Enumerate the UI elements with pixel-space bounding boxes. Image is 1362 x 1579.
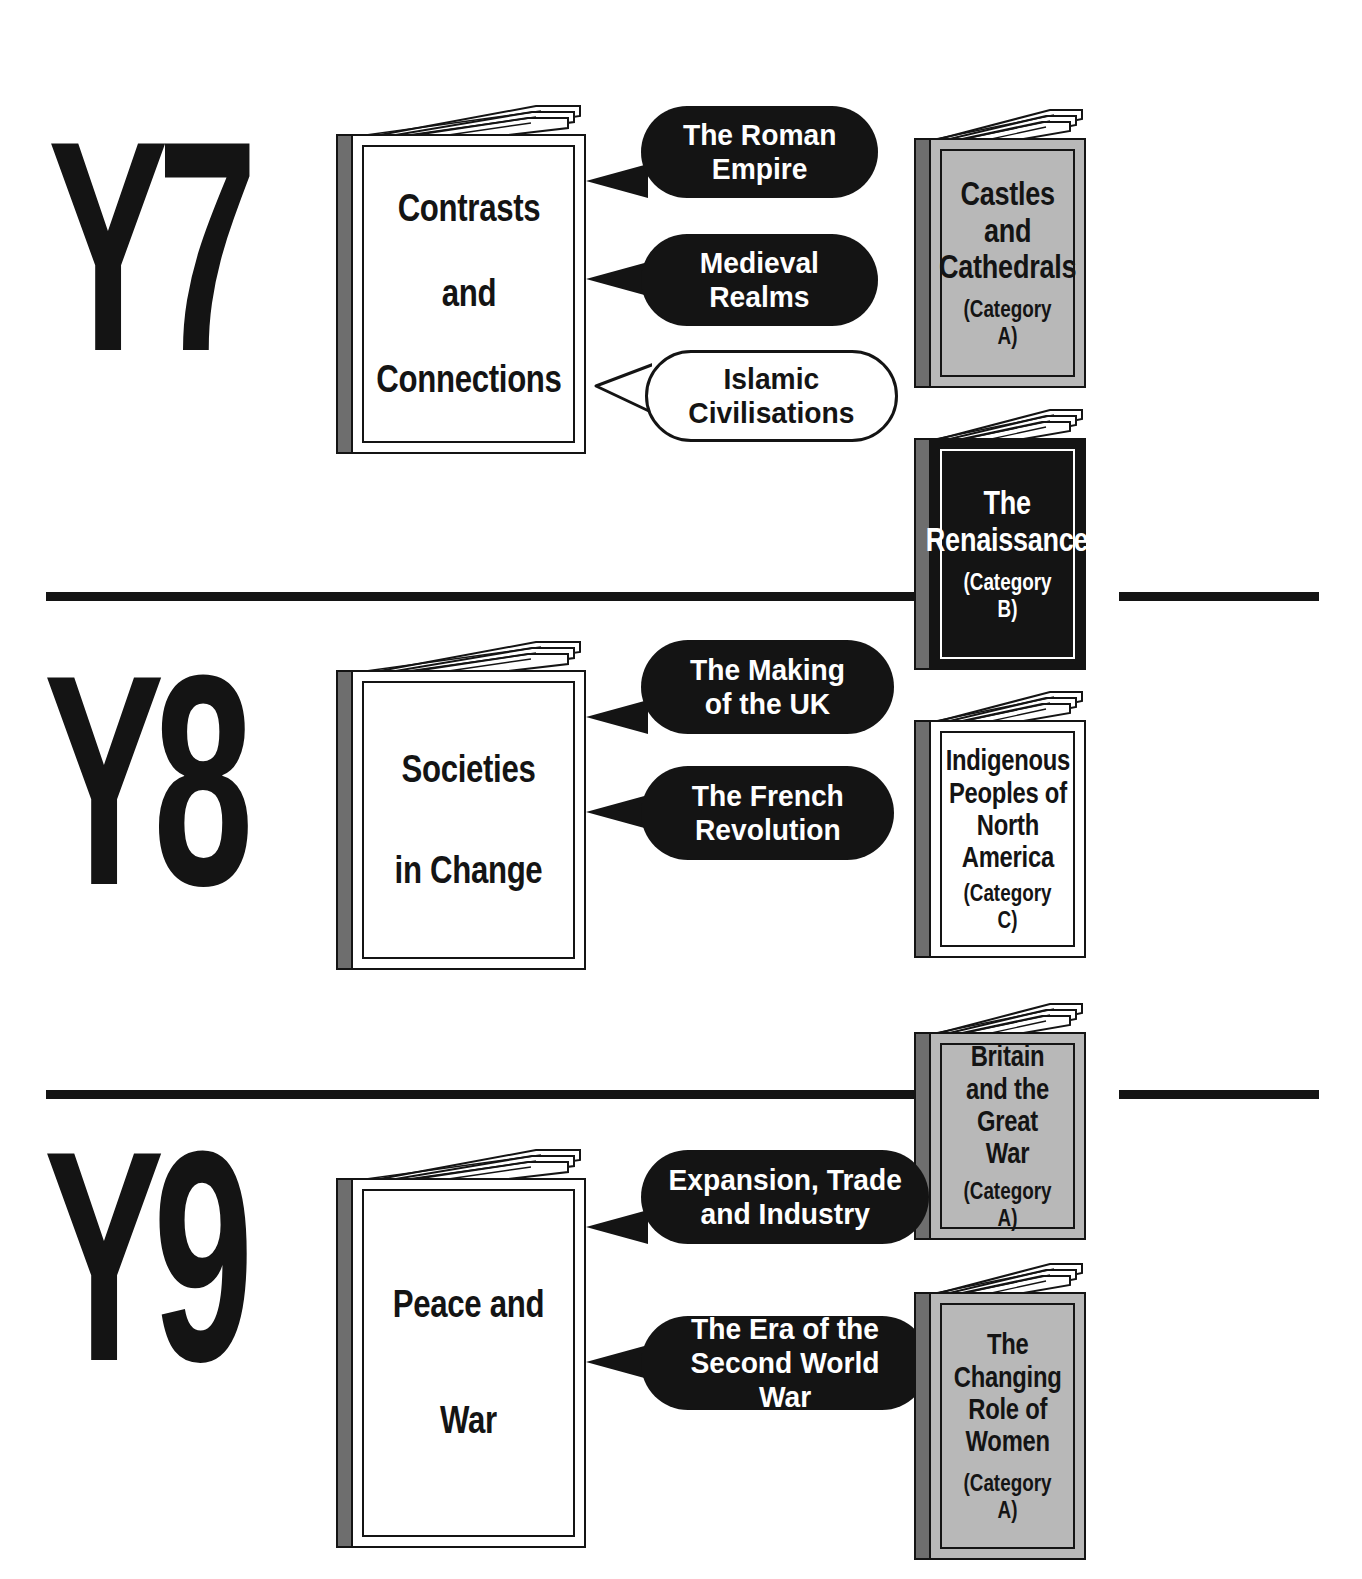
book-category: (Category B) [955, 569, 1059, 623]
bubble-tail-roman-empire [586, 164, 648, 198]
bubble-tail-era-of-the-second-world-war [586, 1345, 648, 1379]
book-title: Britain and the Great War [955, 1040, 1059, 1170]
book-cover: Societies in Change [351, 670, 586, 970]
bubble-label: Medieval Realms [700, 246, 819, 314]
book-britain-and-the-great-war[interactable]: Britain and the Great War (Category A) [914, 1002, 1086, 1240]
book-category: (Category A) [955, 1470, 1059, 1524]
book-title: Societies in Change [384, 719, 552, 920]
bubble-tail-medieval-realms [586, 262, 648, 296]
bubble-the-roman-empire[interactable]: The Roman Empire [641, 106, 878, 198]
bubble-tail-making-of-the-uk [586, 700, 648, 734]
book-cover: Britain and the Great War (Category A) [929, 1032, 1086, 1240]
diagram-canvas: Y7 Y8 Y9 [0, 0, 1362, 1579]
book-peace-and-war[interactable]: Peace and War [336, 1148, 586, 1548]
book-cover: Peace and War [351, 1178, 586, 1548]
bubble-label: The Making of the UK [690, 653, 845, 721]
book-category: (Category A) [955, 296, 1059, 350]
book-cover-inner: Contrasts and Connections [362, 145, 575, 443]
book-body: Contrasts and Connections [336, 134, 586, 454]
book-title: Castles and Cathedrals [939, 176, 1076, 287]
divider-y7-y8-right [1119, 592, 1319, 601]
book-the-changing-role-of-women[interactable]: The Changing Role of Women (Category A) [914, 1262, 1086, 1560]
book-category: (Category A) [955, 1178, 1059, 1232]
book-cover: Castles and Cathedrals (Category A) [929, 138, 1086, 388]
year-label-y9: Y9 [44, 1106, 243, 1406]
bubble-label: Islamic Civilisations [688, 362, 854, 430]
bubble-the-making-of-the-uk[interactable]: The Making of the UK [641, 640, 894, 734]
bubble-label: Expansion, Trade and Industry [668, 1163, 902, 1231]
book-category: (Category C) [955, 880, 1059, 934]
bubble-label: The Era of the Second World War [667, 1312, 904, 1414]
year-label-y7: Y7 [48, 96, 247, 396]
book-cover: Contrasts and Connections [351, 134, 586, 454]
book-title: The Renaissance [926, 485, 1088, 559]
bubble-tail-french-revolution [586, 795, 648, 829]
bubble-the-french-revolution[interactable]: The French Revolution [641, 766, 894, 860]
book-contrasts-and-connections[interactable]: Contrasts and Connections [336, 104, 586, 454]
book-body: The Changing Role of Women (Category A) [914, 1292, 1086, 1560]
bubble-expansion-trade-and-industry[interactable]: Expansion, Trade and Industry [641, 1150, 929, 1244]
book-cover-inner: Britain and the Great War (Category A) [940, 1043, 1075, 1229]
book-body: Peace and War [336, 1178, 586, 1548]
book-cover-inner: Societies in Change [362, 681, 575, 959]
book-indigenous-peoples-of-north-america[interactable]: Indigenous Peoples of North America (Cat… [914, 690, 1086, 958]
book-body: Castles and Cathedrals (Category A) [914, 138, 1086, 388]
book-body: Britain and the Great War (Category A) [914, 1032, 1086, 1240]
book-title: The Changing Role of Women [954, 1328, 1062, 1458]
book-title: Contrasts and Connections [376, 166, 561, 423]
book-cover: The Changing Role of Women (Category A) [929, 1292, 1086, 1560]
book-cover-inner: The Renaissance (Category B) [940, 449, 1075, 659]
book-title: Peace and War [384, 1247, 552, 1479]
book-cover-inner: Peace and War [362, 1189, 575, 1537]
book-body: Indigenous Peoples of North America (Cat… [914, 720, 1086, 958]
book-castles-and-cathedrals[interactable]: Castles and Cathedrals (Category A) [914, 108, 1086, 388]
book-the-renaissance[interactable]: The Renaissance (Category B) [914, 408, 1086, 670]
book-cover: Indigenous Peoples of North America (Cat… [929, 720, 1086, 958]
bubble-tail-expansion-trade-and-industry [586, 1210, 648, 1244]
book-cover: The Renaissance (Category B) [929, 438, 1086, 670]
book-societies-in-change[interactable]: Societies in Change [336, 640, 586, 970]
book-body: The Renaissance (Category B) [914, 438, 1086, 670]
book-title: Indigenous Peoples of North America [945, 744, 1069, 874]
book-cover-inner: Indigenous Peoples of North America (Cat… [940, 731, 1075, 947]
bubble-islamic-civilisations[interactable]: Islamic Civilisations [645, 350, 898, 442]
book-cover-inner: The Changing Role of Women (Category A) [940, 1303, 1075, 1549]
bubble-medieval-realms[interactable]: Medieval Realms [641, 234, 878, 326]
bubble-label: The French Revolution [691, 779, 843, 847]
divider-y8-y9-right [1119, 1090, 1319, 1099]
bubble-the-era-of-the-second-world-war[interactable]: The Era of the Second World War [641, 1316, 929, 1410]
bubble-label: The Roman Empire [683, 118, 837, 186]
book-body: Societies in Change [336, 670, 586, 970]
year-label-y8: Y8 [44, 630, 243, 930]
book-cover-inner: Castles and Cathedrals (Category A) [940, 149, 1075, 377]
